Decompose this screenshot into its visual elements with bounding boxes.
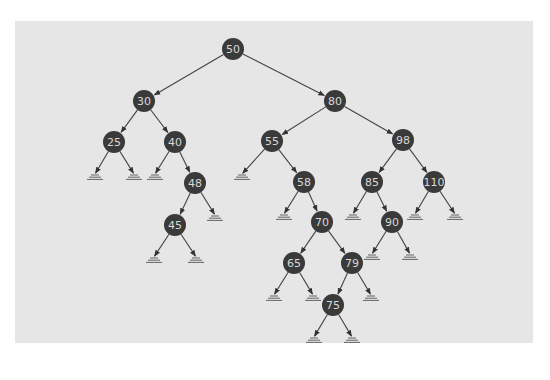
tree-node-55: 55: [261, 130, 283, 152]
node-label: 75: [326, 299, 340, 312]
null-leaf-ground-icon: [440, 191, 463, 219]
node-label: 45: [168, 219, 182, 232]
null-leaf-ground-icon: [407, 191, 428, 219]
tree-edge: [180, 193, 190, 214]
tree-edge: [309, 192, 318, 211]
null-leaf-ground-icon: [306, 314, 327, 342]
null-leaf-ground-icon: [120, 151, 142, 179]
tree-edge: [279, 150, 297, 173]
tree-edge: [377, 192, 387, 211]
node-label: 80: [328, 95, 342, 108]
tree-node-50: 50: [222, 38, 244, 60]
null-leaf-ground-icon: [364, 231, 386, 259]
node-label: 85: [365, 176, 379, 189]
tree-edge: [154, 55, 223, 95]
null-leaf-ground-icon: [339, 314, 360, 342]
node-label: 50: [226, 43, 240, 56]
tree-edge: [338, 273, 348, 294]
null-leaf-ground-icon: [234, 149, 265, 179]
tree-edge: [282, 107, 326, 135]
tree-node-30: 30: [133, 90, 155, 112]
tree-node-48: 48: [184, 172, 206, 194]
node-label: 48: [188, 177, 202, 190]
node-label: 90: [385, 216, 399, 229]
tree-node-90: 90: [381, 211, 403, 233]
null-leaf-ground-icon: [276, 191, 298, 219]
tree-node-25: 25: [103, 131, 125, 153]
tree-edge: [180, 152, 190, 172]
null-leaf-ground-icon: [345, 191, 366, 219]
tree-edge: [151, 110, 168, 133]
tree-node-45: 45: [164, 214, 186, 236]
tree-node-80: 80: [324, 90, 346, 112]
tree-node-110: 110: [423, 171, 445, 193]
null-leaves-layer: [87, 149, 463, 342]
node-label: 40: [168, 136, 182, 149]
tree-edge: [328, 231, 344, 253]
null-leaf-ground-icon: [266, 272, 288, 300]
node-label: 30: [137, 95, 151, 108]
null-leaf-ground-icon: [300, 272, 321, 300]
null-leaf-ground-icon: [87, 151, 108, 179]
tree-node-75: 75: [322, 294, 344, 316]
node-label: 110: [424, 176, 445, 189]
tree-edge: [121, 110, 137, 132]
tree-node-85: 85: [361, 171, 383, 193]
null-leaf-ground-icon: [147, 151, 169, 179]
null-leaf-ground-icon: [358, 272, 379, 300]
tree-edge: [379, 149, 396, 172]
node-label: 25: [107, 136, 121, 149]
node-label: 55: [265, 135, 279, 148]
null-leaf-ground-icon: [146, 234, 169, 262]
tree-edge: [410, 149, 427, 172]
node-label: 98: [396, 134, 410, 147]
tree-edge: [345, 106, 393, 134]
node-label: 70: [315, 216, 329, 229]
tree-node-58: 58: [293, 171, 315, 193]
null-leaf-ground-icon: [181, 234, 204, 262]
tree-node-40: 40: [164, 131, 186, 153]
tree-edge: [243, 54, 325, 96]
tree-node-70: 70: [311, 211, 333, 233]
node-label: 65: [287, 257, 301, 270]
null-leaf-ground-icon: [201, 192, 223, 220]
tree-edge: [301, 231, 316, 253]
edges-layer: [121, 54, 427, 294]
null-leaf-ground-icon: [397, 232, 418, 260]
node-label: 58: [297, 176, 311, 189]
tree-node-65: 65: [283, 252, 305, 274]
tree-diagram: 50308025405598485885110457090657975: [0, 0, 550, 380]
tree-node-79: 79: [341, 252, 363, 274]
tree-node-98: 98: [392, 129, 414, 151]
node-label: 79: [345, 257, 359, 270]
